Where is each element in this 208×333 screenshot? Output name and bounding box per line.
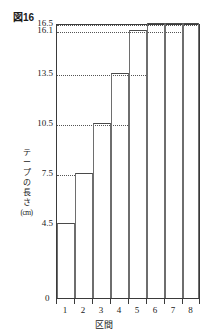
y-axis-title-char: テ bbox=[20, 148, 33, 158]
y-axis-title-char: 長 bbox=[20, 188, 33, 198]
x-tick-label-8: 8 bbox=[182, 305, 199, 316]
y-tick-label-4-5: 4.5 bbox=[42, 219, 53, 228]
x-tick-label-5: 5 bbox=[128, 305, 146, 316]
y-axis-title-char: の bbox=[20, 178, 33, 188]
x-tick-7 bbox=[182, 299, 183, 304]
x-tick-label-3: 3 bbox=[92, 305, 110, 316]
y-axis-title: テ ー プ の 長 さ (cm) bbox=[20, 148, 33, 218]
bar-interval-6 bbox=[147, 23, 165, 298]
y-axis-title-unit: (cm) bbox=[20, 208, 33, 218]
x-tick-1 bbox=[74, 299, 75, 304]
y-tick-label-16-1: 16.1 bbox=[37, 26, 53, 35]
x-tick-label-1: 1 bbox=[56, 305, 74, 316]
x-tick-label-4: 4 bbox=[110, 305, 128, 316]
bar-interval-7 bbox=[165, 23, 183, 298]
x-tick-4 bbox=[128, 299, 129, 304]
bar-interval-8 bbox=[183, 23, 199, 298]
x-tick-label-2: 2 bbox=[74, 305, 92, 316]
x-axis-tick-labels: 1 2 3 4 5 6 7 8 bbox=[56, 305, 200, 317]
x-axis-ticks bbox=[56, 299, 200, 304]
guide-line-7-5 bbox=[57, 175, 75, 176]
y-tick-label-13-5: 13.5 bbox=[37, 69, 53, 78]
origin-label: 0 bbox=[45, 293, 50, 303]
bar-interval-4 bbox=[111, 73, 129, 298]
y-tick-label-10-5: 10.5 bbox=[37, 119, 53, 128]
x-tick-3 bbox=[110, 299, 111, 304]
figure-container: 図16 16.5 16.1 13.5 10.5 7.5 4.5 テ ー プ の … bbox=[0, 0, 208, 333]
plot-frame bbox=[56, 24, 200, 299]
bar-interval-3 bbox=[93, 123, 111, 298]
x-tick-8 bbox=[199, 299, 200, 304]
plot-area bbox=[57, 25, 199, 298]
x-tick-label-6: 6 bbox=[146, 305, 164, 316]
x-tick-2 bbox=[92, 299, 93, 304]
y-axis-title-char: プ bbox=[20, 168, 33, 178]
bar-interval-1 bbox=[57, 223, 75, 298]
x-tick-0 bbox=[56, 299, 57, 304]
bar-interval-5 bbox=[129, 30, 147, 298]
x-tick-6 bbox=[164, 299, 165, 304]
x-tick-5 bbox=[146, 299, 147, 304]
bar-interval-2 bbox=[75, 173, 93, 298]
y-axis-title-char: ー bbox=[20, 158, 33, 168]
x-tick-label-7: 7 bbox=[164, 305, 182, 316]
y-axis-title-char: さ bbox=[20, 198, 33, 208]
y-tick-label-7-5: 7.5 bbox=[42, 169, 53, 178]
x-axis-title: 区間 bbox=[0, 318, 208, 331]
figure-title: 図16 bbox=[13, 9, 34, 24]
